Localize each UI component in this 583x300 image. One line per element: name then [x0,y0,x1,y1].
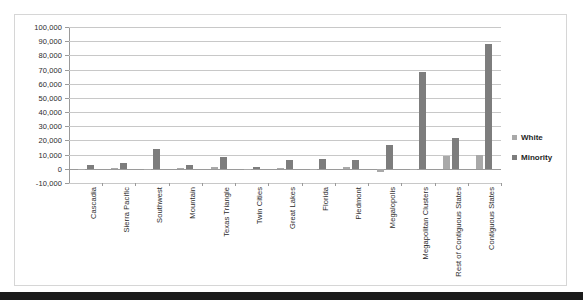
bar-minority-0 [87,165,94,169]
bar-white-4 [211,167,218,169]
bar-white-9 [377,169,384,173]
y-axis-tick [65,155,69,156]
x-axis-label-8: Piedmont [354,187,363,220]
y-axis-tick-label: 80,000 [38,51,62,60]
x-axis-label-4: Texas Triangle [222,187,231,237]
y-axis-tick-label: 30,000 [38,122,62,131]
x-axis-label-3: Mountain [188,187,197,219]
gridline [69,183,501,184]
y-axis-tick [65,126,69,127]
x-axis-label-2: Southwest [155,187,164,223]
x-axis-label-5: Twin Cities [255,187,264,224]
y-axis-tick-label: 40,000 [38,108,62,117]
gridline [69,112,501,113]
y-axis-tick-label: 10,000 [38,150,62,159]
x-axis-label-7: Florida [321,187,330,211]
y-axis-tick [65,27,69,28]
gridline [69,126,501,127]
x-axis-tick [468,183,469,186]
y-axis-tick-label: 50,000 [38,93,62,102]
bar-white-10 [410,169,417,170]
legend-label-minority: Minority [521,153,552,162]
gridline [69,140,501,141]
chart-legend: White Minority [512,133,568,173]
plot-area: 100,00090,00080,00070,00060,00050,00040,… [69,27,501,183]
x-axis-tick [102,183,103,186]
x-axis-tick [235,183,236,186]
bar-minority-11 [452,138,459,168]
bottom-strip [0,292,583,300]
y-axis-tick [65,112,69,113]
y-axis-tick [65,183,69,184]
gridline [69,27,501,28]
x-axis-label-9: Megalopolis [388,187,397,228]
bar-white-11 [443,156,450,169]
x-axis-label-11: Rest of Contiguous States [454,187,463,277]
bar-chart: 100,00090,00080,00070,00060,00050,00040,… [15,15,568,287]
chart-card: 100,00090,00080,00070,00060,00050,00040,… [14,14,567,286]
legend-swatch-white-icon [512,135,517,140]
y-axis-line [69,27,70,183]
bar-minority-3 [186,165,193,169]
bar-minority-9 [386,145,393,169]
y-axis-tick-label: 100,000 [34,23,62,32]
legend-item-minority: Minority [512,153,568,162]
bar-minority-8 [352,160,359,169]
bar-white-1 [111,168,118,169]
x-axis-tick [302,183,303,186]
legend-label-white: White [521,133,543,142]
bar-minority-4 [220,157,227,169]
x-axis-labels: CascadiaSierra PacificSouthwestMountainT… [69,187,501,283]
y-axis-tick [65,84,69,85]
gridline [69,70,501,71]
x-axis-label-1: Sierra Pacific [122,187,131,233]
y-axis-tick [65,98,69,99]
bar-minority-5 [253,167,260,168]
x-axis-label-0: Cascadia [89,187,98,219]
y-axis-tick-label: 60,000 [38,79,62,88]
y-axis-tick-label: 20,000 [38,136,62,145]
y-axis-tick-label: 0 [58,164,62,173]
gridline [69,155,501,156]
x-axis-tick [368,183,369,186]
bar-white-0 [78,169,85,170]
y-axis-tick [65,140,69,141]
y-axis-tick-label: -10,000 [36,179,62,188]
x-axis-label-10: Megapolitan Clusters [421,187,430,259]
bar-white-8 [343,167,350,169]
bar-minority-2 [153,149,160,169]
gridline [69,98,501,99]
bar-minority-7 [319,159,326,169]
x-axis-tick [135,183,136,186]
bar-minority-12 [485,44,492,169]
x-axis-tick [401,183,402,186]
bar-white-3 [177,168,184,169]
bar-white-7 [310,169,317,170]
bar-white-2 [144,169,151,170]
bar-white-12 [476,155,483,168]
gridline [69,41,501,42]
y-axis-tick [65,41,69,42]
bar-minority-1 [120,163,127,169]
bar-white-5 [244,169,251,170]
legend-item-white: White [512,133,568,142]
x-axis-tick [268,183,269,186]
y-axis-tick-label: 70,000 [38,65,62,74]
y-axis-tick-label: 90,000 [38,37,62,46]
x-axis-tick [501,183,502,186]
y-axis-tick [65,70,69,71]
legend-swatch-minority-icon [512,155,517,160]
bar-minority-10 [419,72,426,168]
x-axis-tick [169,183,170,186]
x-axis-tick [202,183,203,186]
y-axis-tick [65,169,69,170]
x-axis-label-12: Contiguous States [487,187,496,250]
y-axis-tick [65,55,69,56]
gridline [69,169,501,170]
bar-minority-6 [286,160,293,169]
bar-white-6 [277,168,284,169]
x-axis-label-6: Great Lakes [288,187,297,229]
gridline [69,55,501,56]
x-axis-tick [435,183,436,186]
x-axis-tick [335,183,336,186]
